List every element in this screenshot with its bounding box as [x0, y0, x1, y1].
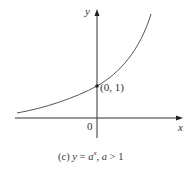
point-label: (0, 1): [100, 82, 124, 93]
caption: (c) y = ax, a > 1: [58, 150, 123, 162]
point-0-1: [95, 84, 99, 88]
chart-canvas: [0, 0, 190, 174]
x-axis-arrow-icon: [176, 116, 183, 121]
exponential-curve: [17, 14, 151, 113]
y-axis-arrow-icon: [95, 9, 100, 16]
y-axis-label: y: [85, 6, 90, 17]
origin-label: 0: [87, 121, 93, 132]
x-axis-label: x: [178, 122, 183, 133]
